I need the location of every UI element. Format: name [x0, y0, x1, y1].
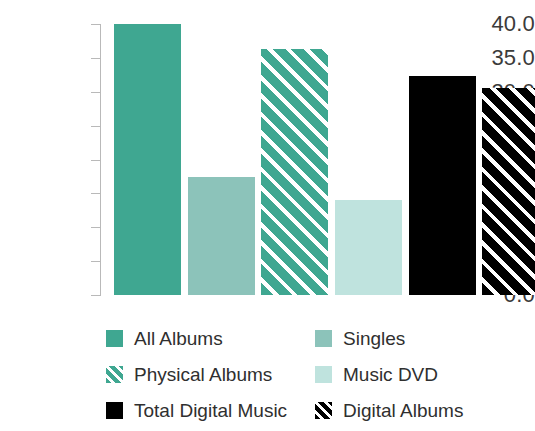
legend-swatch-solid-icon [315, 366, 332, 383]
bars-layer [0, 0, 535, 295]
bar-singles[interactable] [188, 177, 255, 295]
legend-swatch-solid-icon [106, 402, 123, 419]
bar-music-dvd[interactable] [335, 200, 402, 295]
legend-swatch-solid-icon [315, 330, 332, 347]
legend-label: Music DVD [343, 365, 438, 384]
plot-area: 40.0 35.0 30.0 25.0 20.0 15.0 10.0 5.0 0… [0, 0, 535, 310]
legend-item-all-albums[interactable]: All Albums [106, 329, 301, 348]
y-tick-mark [91, 295, 101, 296]
legend-label: Total Digital Music [134, 401, 287, 420]
legend-label: Singles [343, 329, 405, 348]
bar-physical-albums[interactable] [261, 49, 328, 295]
legend-label: Digital Albums [343, 401, 463, 420]
bar-digital-albums[interactable] [482, 88, 535, 295]
legend-label: All Albums [134, 329, 223, 348]
chart-legend: All Albums Singles Physical Albums Music… [106, 320, 526, 428]
legend-label: Physical Albums [134, 365, 272, 384]
legend-swatch-hatch-icon [315, 402, 332, 419]
bar-chart: 40.0 35.0 30.0 25.0 20.0 15.0 10.0 5.0 0… [0, 0, 535, 431]
legend-item-digital-albums[interactable]: Digital Albums [315, 401, 510, 420]
legend-item-total-digital-music[interactable]: Total Digital Music [106, 401, 301, 420]
legend-swatch-solid-icon [106, 330, 123, 347]
bar-all-albums[interactable] [114, 24, 181, 295]
bar-total-digital-music[interactable] [409, 76, 476, 296]
legend-swatch-hatch-icon [106, 366, 123, 383]
legend-item-physical-albums[interactable]: Physical Albums [106, 365, 301, 384]
legend-item-music-dvd[interactable]: Music DVD [315, 365, 510, 384]
legend-item-singles[interactable]: Singles [315, 329, 510, 348]
